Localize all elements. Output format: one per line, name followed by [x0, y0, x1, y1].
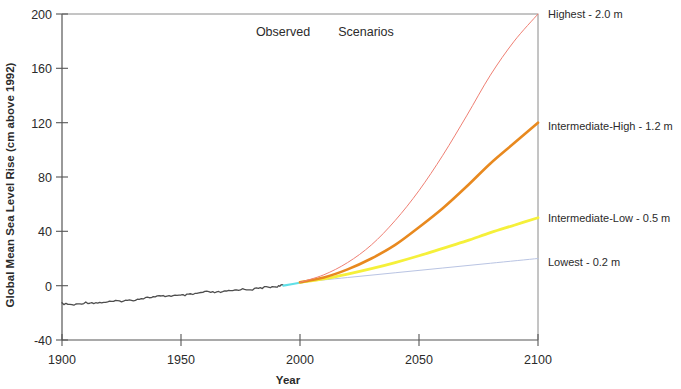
scenarios-annotation: Scenarios: [338, 25, 394, 39]
series-label-intermediate-high: Intermediate-High - 1.2 m: [548, 120, 673, 132]
y-tick-label-160: 160: [31, 62, 52, 76]
series-path-lowest: [300, 259, 538, 283]
sea-level-rise-chart-figure: 200 160 120 80 40 0 -40 1900 1950 2000 2…: [0, 0, 681, 389]
y-tick-label-0: 0: [45, 280, 52, 294]
y-axis-title: Global Mean Sea Level Rise (cm above 199…: [4, 62, 16, 307]
series-label-lowest: Lowest - 0.2 m: [548, 256, 620, 268]
x-tick-label-2000: 2000: [286, 353, 314, 367]
y-tick-label-80: 80: [38, 171, 52, 185]
series-label-highest: Highest - 2.0 m: [548, 8, 623, 20]
y-tick-label-40: 40: [38, 225, 52, 239]
series-path-highest: [300, 14, 538, 282]
y-axis-tick-labels: 200 160 120 80 40 0 -40: [31, 8, 52, 348]
x-axis-title: Year: [276, 374, 301, 386]
x-tick-label-2100: 2100: [524, 353, 552, 367]
axes-frame: [62, 14, 538, 340]
data-series-group: [62, 14, 538, 305]
series-labels-group: Highest - 2.0 m Intermediate-High - 1.2 …: [548, 8, 673, 268]
x-tick-label-1900: 1900: [48, 353, 76, 367]
x-tick-label-2050: 2050: [405, 353, 433, 367]
observed-annotation: Observed: [256, 25, 310, 39]
y-tick-label-minus40: -40: [34, 334, 52, 348]
series-path-intermediate-high: [300, 123, 538, 283]
y-tick-label-120: 120: [31, 117, 52, 131]
x-axis-tick-labels: 1900 1950 2000 2050 2100: [48, 353, 552, 367]
series-path-observed: [62, 285, 283, 306]
series-label-intermediate-low: Intermediate-Low - 0.5 m: [548, 212, 670, 224]
chart-canvas: 200 160 120 80 40 0 -40 1900 1950 2000 2…: [0, 0, 681, 389]
y-tick-label-200: 200: [31, 8, 52, 22]
x-tick-label-1950: 1950: [167, 353, 195, 367]
